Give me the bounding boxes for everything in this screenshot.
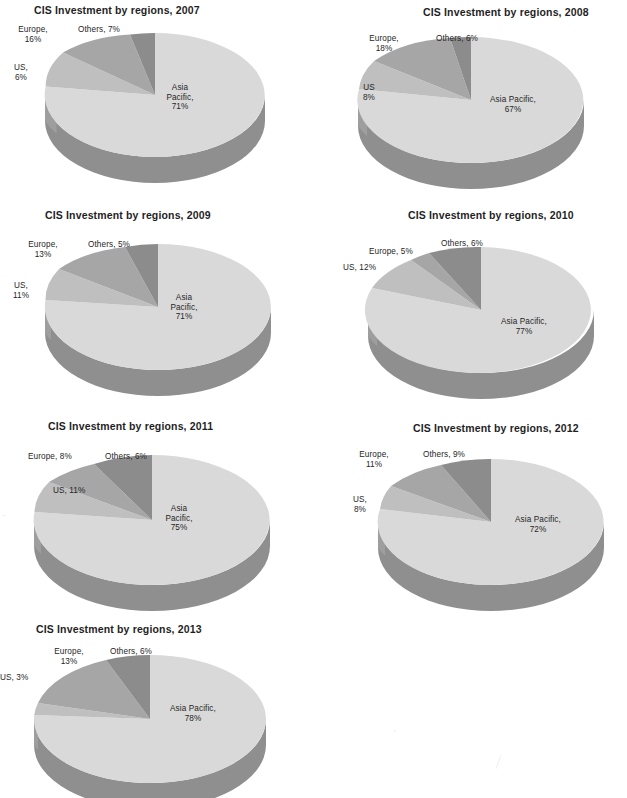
pie-svg-2010: [313, 195, 627, 402]
label-us-2011: US, 11%: [53, 486, 85, 496]
label-us-2007: US, 6%: [0, 63, 42, 82]
label-europe-2011: Europe, 8%: [28, 452, 72, 462]
label-asia-pacific-2013: Asia Pacific, 78%: [148, 704, 238, 723]
pie-chart-2012: CIS Investment by regions, 2012 Europe, …: [313, 402, 627, 609]
label-others-2008: Others, 6%: [436, 34, 478, 44]
label-europe-2012: Europe, 11%: [343, 450, 405, 469]
scan-artifact-mark: [496, 755, 502, 768]
pie-chart-2010: CIS Investment by regions, 2010 Europe, …: [313, 195, 627, 402]
pie-chart-2007: CIS Investment by regions, 2007 Europe, …: [0, 0, 313, 195]
label-asia-pacific-2007: Asia Pacific, 71%: [145, 83, 215, 112]
label-us-2008: US 8%: [351, 83, 387, 102]
label-europe-2007: Europe, 16%: [2, 25, 64, 44]
pie-graphic-2010: [313, 195, 627, 402]
scan-artifact-dot: [394, 730, 396, 732]
label-europe-2013: Europe, 13%: [38, 647, 100, 666]
label-us-2009: US, 11%: [2, 281, 40, 300]
label-europe-2009: Europe, 13%: [12, 240, 74, 259]
pie-chart-2008: CIS Investment by regions, 2008 Europe, …: [313, 0, 627, 195]
figure-sheet: CIS Investment by regions, 2007 Europe, …: [0, 0, 627, 798]
pie-chart-2013: CIS Investment by regions, 2013 Europe, …: [0, 609, 313, 798]
label-asia-pacific-2008: Asia Pacific, 67%: [468, 95, 558, 114]
label-others-2009: Others, 5%: [88, 240, 130, 250]
label-asia-pacific-2010: Asia Pacific, 77%: [478, 317, 570, 336]
label-us-2013: US, 3%: [0, 673, 28, 683]
label-others-2010: Others, 6%: [441, 239, 483, 249]
label-others-2013: Others, 6%: [110, 647, 152, 657]
label-others-2007: Others, 7%: [78, 25, 120, 35]
label-asia-pacific-2012: Asia Pacific, 72%: [493, 515, 583, 534]
label-us-2012: US, 8%: [343, 495, 377, 514]
pie-chart-2009: CIS Investment by regions, 2009 Europe, …: [0, 195, 313, 402]
label-others-2011: Others, 6%: [105, 452, 147, 462]
label-asia-pacific-2011: Asia Pacific, 75%: [143, 504, 215, 533]
label-us-2010: US, 12%: [343, 263, 376, 273]
label-europe-2010: Europe, 5%: [369, 247, 413, 257]
label-asia-pacific-2009: Asia Pacific, 71%: [148, 293, 220, 322]
pie-chart-2011: CIS Investment by regions, 2011 Europe, …: [0, 402, 313, 609]
label-europe-2008: Europe, 18%: [353, 34, 415, 53]
label-others-2012: Others, 9%: [423, 450, 465, 460]
